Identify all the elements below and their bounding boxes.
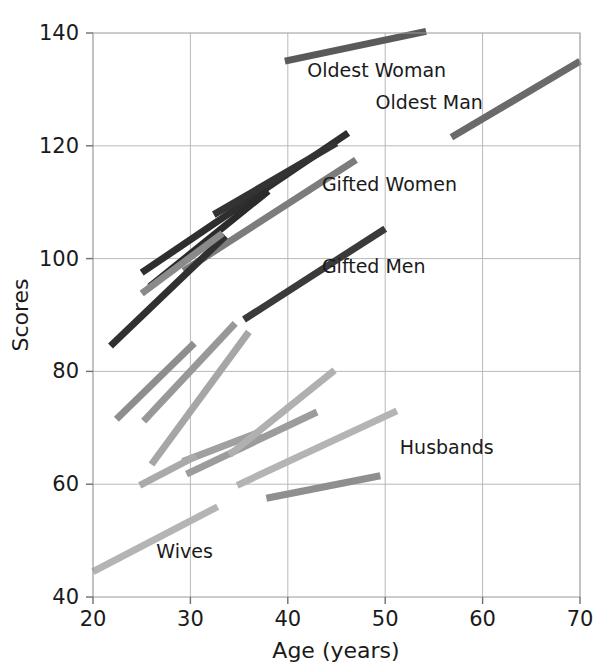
y-tick-label: 80 xyxy=(52,359,79,383)
y-tick-label: 100 xyxy=(39,247,79,271)
series-label-husbands: Husbands xyxy=(400,436,494,458)
y-tick-label: 40 xyxy=(52,585,79,609)
y-tick-label: 120 xyxy=(39,134,79,158)
x-tick-label: 40 xyxy=(274,607,301,631)
y-tick-label: 60 xyxy=(52,472,79,496)
x-tick-label: 60 xyxy=(469,607,496,631)
x-tick-label: 70 xyxy=(567,607,594,631)
x-axis-title: Age (years) xyxy=(272,638,399,663)
x-tick-label: 20 xyxy=(80,607,107,631)
series-label-oldest-man: Oldest Man xyxy=(375,91,482,113)
x-tick-label: 30 xyxy=(177,607,204,631)
chart-canvas: 203040506070 406080100120140 Oldest Woma… xyxy=(0,0,599,669)
y-axis-title: Scores xyxy=(8,278,33,351)
series-label-gifted-women: Gifted Women xyxy=(322,173,457,195)
x-tick-label: 50 xyxy=(372,607,399,631)
series-label-gifted-men: Gifted Men xyxy=(322,255,426,277)
series-label-wives: Wives xyxy=(156,540,212,562)
series-label-oldest-woman: Oldest Woman xyxy=(307,59,446,81)
y-tick-label: 140 xyxy=(39,21,79,45)
scatter-trajectory-chart: 203040506070 406080100120140 Oldest Woma… xyxy=(0,0,599,669)
